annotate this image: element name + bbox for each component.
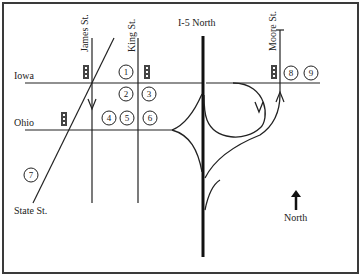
svg-text:7: 7 [29,170,34,180]
location-marker-2[interactable]: 2 [119,87,133,101]
svg-text:3: 3 [147,89,152,99]
location-marker-9[interactable]: 9 [304,66,318,80]
traffic-light-icon-iowa-king [144,65,150,79]
location-marker-3[interactable]: 3 [142,87,156,101]
moore-st-label: Moore St. [267,11,278,51]
location-marker-5[interactable]: 5 [120,111,134,125]
svg-text:6: 6 [148,113,153,123]
loop-direction-arrow-icon [255,102,263,112]
north-arrow-icon [291,190,301,210]
location-marker-7[interactable]: 7 [24,168,38,182]
svg-text:5: 5 [125,113,130,123]
svg-text:1: 1 [124,67,129,77]
ohio-ramp-south [172,130,202,172]
ohio-label: Ohio [14,117,34,128]
svg-text:4: 4 [107,113,112,123]
location-marker-4[interactable]: 4 [102,111,116,125]
location-marker-6[interactable]: 6 [143,111,157,125]
svg-text:9: 9 [309,68,314,78]
state-street [33,38,114,203]
location-marker-1[interactable]: 1 [119,65,133,79]
traffic-light-icon-iowa-james [83,65,89,79]
traffic-light-icon-iowa-moore [271,65,277,79]
svg-text:2: 2 [124,89,129,99]
iowa-label: Iowa [14,70,35,81]
location-marker-8[interactable]: 8 [284,66,298,80]
north-label: North [284,212,307,223]
ohio-ramp-north [172,94,202,130]
i5-north-label: I-5 North [178,17,216,28]
james-st-label: James St. [79,14,90,52]
svg-text:8: 8 [289,68,294,78]
traffic-light-icon-ohio-state [61,112,67,126]
cloverleaf-loop [204,83,265,137]
state-st-label: State St. [14,205,47,216]
king-st-label: King St. [126,19,137,52]
map-diagram: Iowa Ohio State St. I-5 North James St. … [0,0,360,277]
lower-ramp [205,180,220,210]
